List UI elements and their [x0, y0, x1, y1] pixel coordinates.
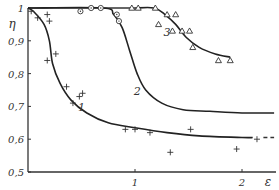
triangle-marker	[187, 28, 193, 33]
plus-marker	[44, 12, 50, 18]
x-tick-label: 2	[238, 177, 245, 188]
circle-marker-dot	[116, 14, 117, 15]
curve-2	[28, 8, 274, 114]
y-axis-title: η	[8, 17, 16, 31]
circle-marker-dot	[100, 7, 101, 8]
triangle-marker	[173, 12, 179, 17]
plus-marker	[44, 57, 50, 63]
plus-marker	[80, 90, 86, 96]
x-axis-title: ε	[265, 175, 271, 189]
curves	[28, 8, 274, 138]
axes: 0,50,60,70,80,9112	[8, 3, 276, 188]
plus-marker	[234, 146, 240, 152]
data-markers	[28, 5, 260, 155]
plus-marker	[76, 94, 82, 100]
triangle-marker	[156, 21, 162, 26]
plus-marker	[64, 84, 70, 90]
y-tick-label: 0,9	[8, 36, 25, 47]
y-tick-label: 0,8	[8, 69, 24, 80]
plus-marker	[35, 15, 41, 21]
plus-marker	[53, 51, 59, 57]
plus-marker	[188, 126, 194, 132]
plus-marker	[254, 136, 260, 142]
y-tick-label: 0,6	[8, 134, 25, 145]
triangle-marker	[215, 57, 221, 62]
triangle-marker	[227, 57, 233, 62]
labels: εη123	[8, 17, 271, 189]
curve-label-1: 1	[78, 101, 85, 114]
chart-canvas: 0,50,60,70,80,9112 εη123	[0, 0, 279, 190]
x-tick-label: 1	[132, 177, 138, 188]
curve-label-2: 2	[133, 85, 141, 98]
y-tick-label: 0,5	[8, 167, 24, 178]
plus-marker	[46, 18, 52, 24]
plus-marker	[167, 149, 173, 155]
circle-marker-dot	[80, 11, 81, 12]
y-tick-label: 1	[18, 3, 24, 14]
circle-marker-dot	[90, 7, 91, 8]
circle-marker-dot	[118, 20, 119, 21]
curve-1	[28, 8, 253, 138]
y-tick-label: 0,7	[8, 101, 25, 112]
curve-label-3: 3	[164, 26, 171, 39]
